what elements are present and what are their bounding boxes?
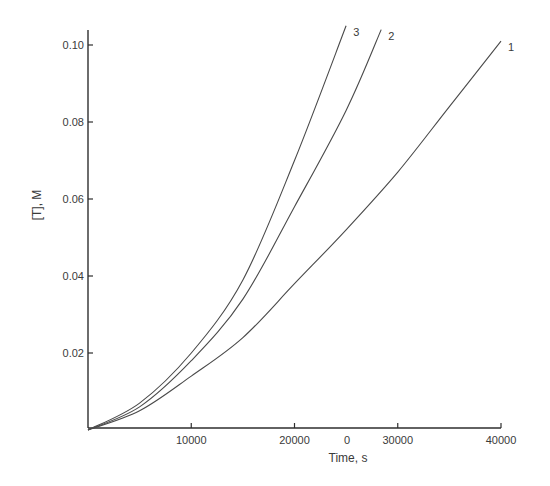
data-curves <box>88 26 501 430</box>
y-tick-label: 0.04 <box>63 270 84 282</box>
curve-label-3: 3 <box>353 26 359 38</box>
axes <box>88 30 501 428</box>
curve-3 <box>88 26 346 430</box>
x-tick-label: 20000 <box>279 434 310 446</box>
x-tick-label: 10000 <box>176 434 207 446</box>
x-ticks: 100002000030000400000 <box>176 423 516 446</box>
x-tick-label: 30000 <box>382 434 413 446</box>
curve-1 <box>88 41 501 430</box>
y-tick-label: 0.08 <box>63 116 84 128</box>
x-stray-label: 0 <box>344 434 350 446</box>
line-chart: 0.020.040.060.080.10 1000020000300004000… <box>0 0 550 486</box>
y-tick-label: 0.02 <box>63 347 84 359</box>
y-tick-label: 0.10 <box>63 39 84 51</box>
curve-label-1: 1 <box>508 41 514 53</box>
curve-label-2: 2 <box>388 30 394 42</box>
y-tick-label: 0.06 <box>63 193 84 205</box>
x-axis-label: Time, s <box>329 451 368 465</box>
y-axis-label: [T], M <box>30 190 44 221</box>
x-tick-label: 40000 <box>486 434 517 446</box>
curve-2 <box>88 30 381 430</box>
